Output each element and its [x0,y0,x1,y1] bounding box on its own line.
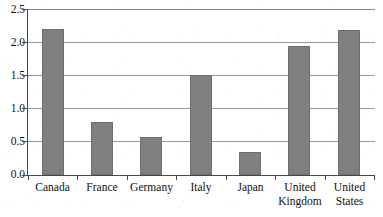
x-tick-mark-4 [226,176,227,180]
x-label-france: France [77,181,127,195]
x-axis-labels: Canada France Germany Italy Japan United… [28,181,375,217]
x-label-japan: Japan [226,181,275,195]
bar-italy [190,75,212,175]
bar-france [91,122,113,175]
x-label-united-kingdom: United Kingdom [275,181,325,208]
bar-japan [239,152,261,175]
x-tick-mark-3 [176,176,177,180]
x-tick-mark-1 [77,176,78,180]
x-tick-mark-6 [325,176,326,180]
x-tick-mark-0 [28,176,29,180]
x-tick-mark-5 [275,176,276,180]
x-label-italy: Italy [176,181,226,195]
bar-united-states [338,30,360,175]
bar-germany [140,137,162,176]
bar-united-kingdom [288,46,310,175]
bar-canada [42,29,64,175]
x-tick-mark-2 [127,176,128,180]
x-label-germany: Germany [127,181,176,195]
x-label-united-states: United States [325,181,374,208]
bar-chart: 2.5 2.0 1.5 1.0 0.5 0.0 [0,0,383,217]
bars-layer [28,9,375,175]
x-label-canada: Canada [28,181,77,195]
x-tick-mark-7 [374,176,375,180]
